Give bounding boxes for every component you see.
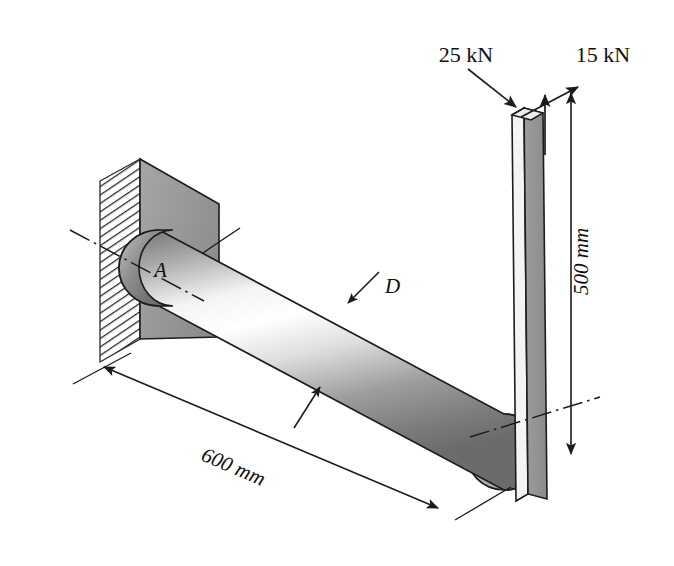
label-point-a: A [152, 258, 167, 282]
label-force-25kn: 25 kN [439, 42, 494, 67]
label-diameter-D: D [384, 274, 400, 298]
vertical-flat-bar [512, 108, 547, 501]
label-500mm: 500 mm [569, 228, 593, 295]
bar-side-face [524, 108, 547, 499]
label-force-15kn: 15 kN [576, 42, 631, 67]
isometric-diagram-canvas: 600 mm 500 mm D A 25 kN 15 kN [0, 0, 674, 566]
engineering-figure: 600 mm 500 mm D A 25 kN 15 kN [0, 0, 674, 566]
